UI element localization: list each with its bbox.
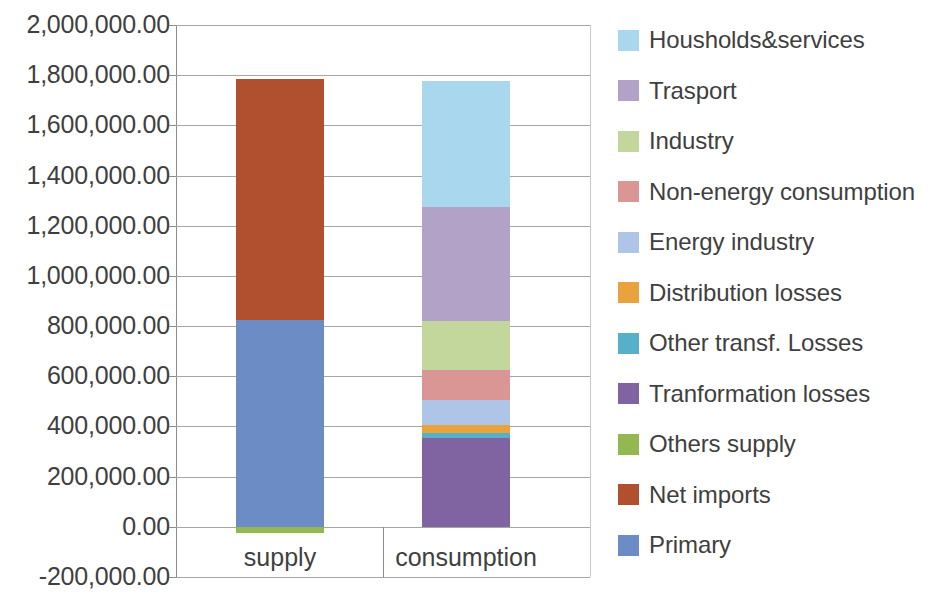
y-axis-tick (169, 276, 176, 277)
legend-item[interactable]: Industry (618, 127, 734, 155)
legend-swatch-icon (618, 333, 639, 354)
legend-label: Distribution losses (649, 281, 842, 305)
legend-swatch-icon (618, 30, 639, 51)
y-axis-tick (169, 125, 176, 126)
bar-segment[interactable] (236, 527, 324, 533)
y-axis-tick (169, 25, 176, 26)
legend-item[interactable]: Distribution losses (618, 279, 842, 307)
plot-area (176, 25, 590, 577)
legend-swatch-icon (618, 535, 639, 556)
y-axis-tick-label: 1,200,000.00 (0, 213, 170, 238)
y-axis-tick (169, 326, 176, 327)
legend-swatch-icon (618, 232, 639, 253)
y-axis-tick-label: 1,000,000.00 (0, 263, 170, 288)
legend-label: Tranformation losses (649, 382, 870, 406)
y-axis-line (176, 25, 177, 577)
y-axis-tick-label: 1,800,000.00 (0, 62, 170, 87)
y-axis-tick-label: 0.00 (0, 514, 170, 539)
stacked-bar-chart: 2,000,000.001,800,000.001,600,000.001,40… (0, 0, 937, 592)
legend-item[interactable]: Housholds&services (618, 26, 865, 54)
bar-segment[interactable] (236, 79, 324, 320)
y-axis-tick-label: 600,000.00 (0, 363, 170, 388)
grid-line (176, 577, 590, 578)
y-axis-tick-label: 400,000.00 (0, 413, 170, 438)
legend-label: Primary (649, 533, 731, 557)
bar-supply[interactable] (236, 25, 324, 577)
legend-item[interactable]: Net imports (618, 481, 771, 509)
y-axis-tick-label: 200,000.00 (0, 464, 170, 489)
legend-item[interactable]: Primary (618, 531, 731, 559)
y-axis: 2,000,000.001,800,000.001,600,000.001,40… (0, 0, 170, 592)
y-axis-tick (169, 426, 176, 427)
y-axis-tick-label: 800,000.00 (0, 313, 170, 338)
y-axis-tick-label: 1,400,000.00 (0, 163, 170, 188)
legend-swatch-icon (618, 80, 639, 101)
legend-label: Trasport (649, 79, 737, 103)
bar-segment[interactable] (422, 433, 510, 438)
legend-label: Energy industry (649, 230, 814, 254)
legend: Housholds&servicesTrasportIndustryNon-en… (618, 0, 937, 592)
legend-swatch-icon (618, 282, 639, 303)
y-axis-tick (169, 527, 176, 528)
bar-segment[interactable] (422, 207, 510, 321)
bar-segment[interactable] (422, 438, 510, 527)
legend-item[interactable]: Trasport (618, 77, 737, 105)
y-axis-tick-label: 2,000,000.00 (0, 12, 170, 37)
y-axis-tick (169, 226, 176, 227)
legend-item[interactable]: Tranformation losses (618, 380, 870, 408)
plot-right-edge (590, 25, 591, 577)
legend-item[interactable]: Other transf. Losses (618, 329, 863, 357)
y-axis-tick-label: 1,600,000.00 (0, 112, 170, 137)
legend-label: Non-energy consumption (649, 180, 915, 204)
y-axis-tick (169, 376, 176, 377)
bar-segment[interactable] (422, 321, 510, 370)
legend-label: Industry (649, 129, 734, 153)
bar-segment[interactable] (422, 400, 510, 425)
legend-item[interactable]: Energy industry (618, 228, 814, 256)
legend-swatch-icon (618, 181, 639, 202)
legend-item[interactable]: Non-energy consumption (618, 178, 915, 206)
y-axis-tick-label: -200,000.00 (0, 564, 170, 589)
bar-segment[interactable] (422, 425, 510, 433)
legend-item[interactable]: Others supply (618, 430, 796, 458)
bar-segment[interactable] (236, 320, 324, 527)
y-axis-tick (169, 477, 176, 478)
legend-swatch-icon (618, 484, 639, 505)
legend-label: Housholds&services (649, 28, 865, 52)
legend-swatch-icon (618, 434, 639, 455)
x-axis-label-consumption: consumption (356, 545, 576, 570)
bar-segment[interactable] (422, 370, 510, 400)
legend-swatch-icon (618, 131, 639, 152)
legend-label: Net imports (649, 483, 771, 507)
bar-segment[interactable] (422, 81, 510, 206)
legend-label: Other transf. Losses (649, 331, 863, 355)
legend-swatch-icon (618, 383, 639, 404)
bar-consumption[interactable] (422, 25, 510, 577)
y-axis-tick (169, 577, 176, 578)
y-axis-tick (169, 176, 176, 177)
y-axis-tick (169, 75, 176, 76)
legend-label: Others supply (649, 432, 796, 456)
